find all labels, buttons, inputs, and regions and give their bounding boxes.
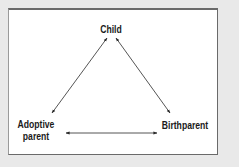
node-birthparent: Birthparent [152, 119, 218, 131]
arrow-child-adoptive [52, 38, 107, 113]
node-birthparent-label: Birthparent [162, 119, 208, 131]
arrow-child-birthparent [116, 38, 170, 113]
node-child-label: Child [100, 23, 122, 35]
node-adoptive-label-line2: parent [11, 130, 60, 142]
node-adoptive-label-line1: Adoptive [11, 118, 60, 130]
node-adoptive-parent: Adoptive parent [11, 118, 60, 142]
node-child: Child [95, 23, 128, 35]
